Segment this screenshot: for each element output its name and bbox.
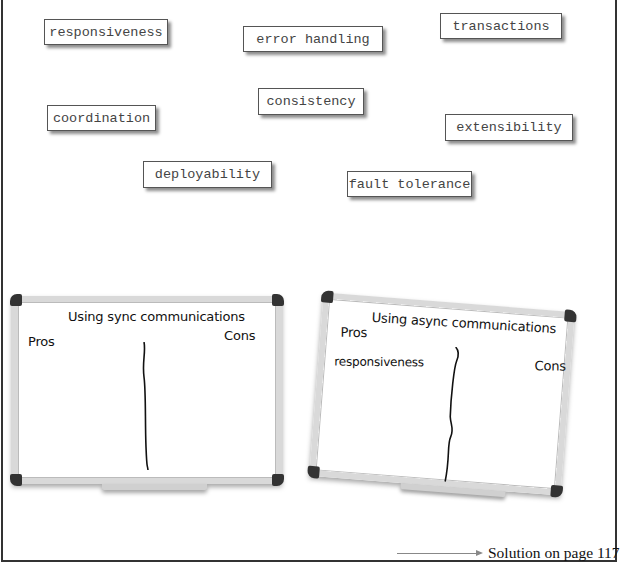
board-corner-icon: [272, 294, 284, 306]
marker-tray: [102, 484, 207, 490]
board-title: Using async communications: [371, 310, 556, 336]
board-corner-icon: [321, 290, 334, 303]
note-coordination[interactable]: coordination: [47, 105, 156, 131]
arrow-right-icon: [397, 553, 477, 554]
divider-line: [439, 346, 470, 487]
cons-label: Cons: [224, 328, 255, 343]
solution-reference: Solution on page 117: [488, 544, 620, 562]
note-transactions[interactable]: transactions: [440, 13, 562, 39]
note-consistency[interactable]: consistency: [258, 88, 364, 115]
whiteboard-sync: Using sync communications Pros Cons: [12, 296, 282, 484]
board-corner-icon: [10, 474, 22, 486]
note-responsiveness[interactable]: responsiveness: [44, 19, 168, 45]
note-extensibility[interactable]: extensibility: [445, 114, 573, 141]
board-corner-icon: [10, 294, 22, 306]
cons-label: Cons: [534, 358, 565, 373]
note-fault-tolerance[interactable]: fault tolerance: [347, 171, 472, 197]
note-deployability[interactable]: deployability: [143, 161, 272, 188]
board-title: Using sync communications: [68, 309, 245, 324]
whiteboard-async: Using async communications Pros Cons res…: [309, 292, 575, 495]
pros-label: Pros: [340, 325, 367, 340]
divider-line: [140, 342, 152, 472]
pros-item: responsiveness: [334, 355, 424, 370]
note-error-handling[interactable]: error handling: [243, 26, 383, 52]
pros-label: Pros: [28, 334, 55, 349]
